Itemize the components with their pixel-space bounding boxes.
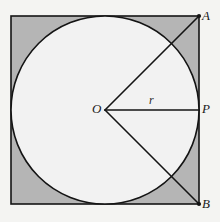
radius-label: r: [149, 94, 154, 106]
point-B-marker: [197, 202, 201, 206]
geometry-figure: A P B O r: [0, 0, 220, 222]
point-label-A: A: [202, 9, 210, 22]
point-A-marker: [197, 14, 201, 18]
point-label-P: P: [202, 102, 210, 115]
figure-canvas: [0, 0, 220, 222]
point-label-B: B: [202, 197, 210, 210]
point-label-O: O: [92, 102, 101, 115]
